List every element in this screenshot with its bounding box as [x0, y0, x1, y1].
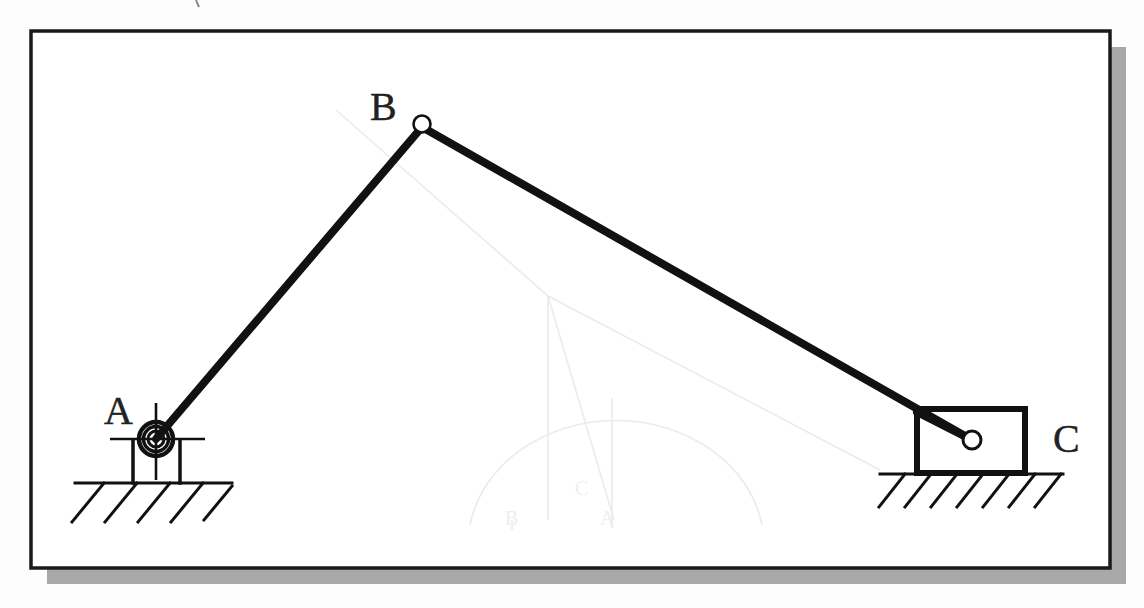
scan-artifact-mark — [196, 0, 199, 7]
svg-text:C: C — [575, 477, 588, 499]
vertex-label-a: A — [104, 388, 133, 433]
svg-text:B: B — [505, 507, 518, 529]
pin-joint-C — [963, 431, 981, 449]
vertex-label-b: B — [370, 84, 397, 129]
mechanism-diagram: B A C — [0, 0, 1144, 608]
vertex-label-c: C — [1053, 416, 1080, 461]
svg-text:A: A — [600, 507, 615, 529]
pin-joint-B — [414, 116, 431, 133]
